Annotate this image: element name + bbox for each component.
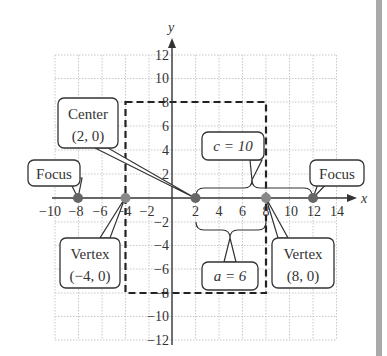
hyperbola-diagram: y x 12 10 8 6 4 2 −2 −4 −6 −8 −10 −12 −1… <box>0 0 387 356</box>
c-brace <box>196 180 312 196</box>
svg-text:−12: −12 <box>147 333 169 348</box>
focus-left-point <box>73 193 83 203</box>
svg-text:−10: −10 <box>39 204 61 219</box>
x-tick-labels: −10 −8 −6 −4 −2 2 4 6 8 10 12 14 <box>39 204 344 219</box>
svg-text:8: 8 <box>162 95 169 110</box>
svg-text:−6: −6 <box>93 204 108 219</box>
y-axis-arrow-icon <box>168 38 176 48</box>
svg-text:12: 12 <box>155 48 169 63</box>
svg-text:a = 6: a = 6 <box>214 268 247 284</box>
svg-text:12: 12 <box>307 204 321 219</box>
a-brace <box>196 222 266 238</box>
x-axis-arrow-icon <box>347 194 357 202</box>
center-callout: Center (2, 0) <box>58 98 118 148</box>
svg-text:−10: −10 <box>147 309 169 324</box>
vertex-left-point <box>121 193 131 203</box>
svg-text:−8: −8 <box>154 286 169 301</box>
vertex-left-callout: Vertex (−4, 0) <box>60 238 120 288</box>
y-axis-label: y <box>166 20 175 35</box>
svg-text:Vertex: Vertex <box>70 246 110 262</box>
svg-text:Focus: Focus <box>319 166 355 182</box>
svg-text:(2, 0): (2, 0) <box>72 128 105 145</box>
svg-text:c = 10: c = 10 <box>213 138 253 154</box>
svg-text:6: 6 <box>239 204 246 219</box>
svg-text:−2: −2 <box>140 204 155 219</box>
focus-left-callout: Focus <box>28 160 80 186</box>
c-callout: c = 10 <box>202 132 264 160</box>
svg-text:(8, 0): (8, 0) <box>287 268 320 285</box>
svg-text:−6: −6 <box>154 262 169 277</box>
svg-text:Focus: Focus <box>36 166 72 182</box>
svg-text:10: 10 <box>284 204 298 219</box>
vertex-right-callout: Vertex (8, 0) <box>272 238 334 288</box>
center-point <box>191 193 201 203</box>
vertex-right-point <box>261 193 271 203</box>
a-callout: a = 6 <box>202 262 258 290</box>
page-edge-bar <box>376 0 382 356</box>
svg-text:2: 2 <box>192 204 199 219</box>
focus-right-point <box>308 193 318 203</box>
svg-text:−2: −2 <box>154 215 169 230</box>
svg-text:Vertex: Vertex <box>283 246 323 262</box>
svg-text:4: 4 <box>162 143 169 158</box>
focus-right-callout: Focus <box>310 160 364 186</box>
svg-text:10: 10 <box>155 71 169 86</box>
axes <box>52 44 350 345</box>
svg-text:−8: −8 <box>69 204 84 219</box>
svg-text:4: 4 <box>216 204 223 219</box>
svg-text:Center: Center <box>68 106 108 122</box>
svg-text:−4: −4 <box>154 238 169 253</box>
svg-text:14: 14 <box>330 204 344 219</box>
x-axis-label: x <box>360 191 368 206</box>
svg-text:(−4, 0): (−4, 0) <box>70 268 111 285</box>
svg-text:6: 6 <box>162 119 169 134</box>
